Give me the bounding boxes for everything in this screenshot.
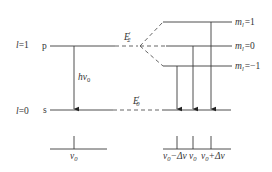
- ml-0-label: ml=0: [235, 41, 255, 52]
- nu0-plus-label: ν0+Δν: [201, 151, 225, 162]
- p-orbital-label: p: [42, 41, 47, 51]
- hv0-label: hν0: [78, 72, 90, 83]
- s-orbital-label: s: [43, 105, 47, 115]
- split-line-up: [140, 22, 163, 46]
- ml-minus1-label: ml=−1: [235, 61, 260, 72]
- e2-prime-label: E′2: [123, 30, 131, 43]
- zeeman-diagram: l=1 l=0 p s hν0 E′2 E′0 ml=1 ml=0 ml=−1 …: [0, 0, 272, 172]
- ml-plus1-label: ml=1: [235, 17, 255, 28]
- split-line-down: [140, 46, 163, 66]
- nu0-minus-label: ν0−Δν: [163, 151, 187, 162]
- left-nu0-label: ν0: [70, 151, 78, 162]
- lower-l-label: l=0: [16, 106, 29, 116]
- nu0-center-label: ν0: [189, 151, 197, 162]
- e0-prime-label: E′0: [132, 94, 140, 107]
- upper-l-label: l=1: [16, 40, 29, 50]
